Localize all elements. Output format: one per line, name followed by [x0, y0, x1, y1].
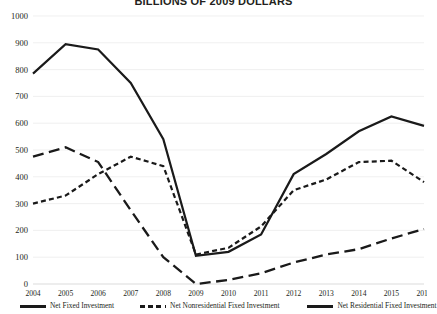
plot-area: 01002003004005006007008009001000 2004200…: [0, 0, 427, 296]
x-tick-label: 2004: [25, 289, 40, 296]
chart-legend: Net Fixed InvestmentNet Nonresidential F…: [0, 299, 427, 313]
data-series-group: [33, 44, 424, 284]
legend-swatch-dotted: [140, 305, 166, 308]
y-tick-label: 500: [15, 145, 28, 155]
x-tick-label: 2005: [58, 289, 73, 296]
y-tick-label: 700: [15, 91, 28, 101]
y-tick-label: 200: [15, 225, 28, 235]
legend-item[interactable]: Net Fixed Investment: [20, 302, 114, 309]
y-tick-label: 1000: [11, 11, 28, 21]
x-tick-label: 2008: [156, 289, 171, 296]
legend-item[interactable]: Net Residential Fixed Investment: [307, 302, 436, 309]
y-axis-tick-labels: 01002003004005006007008009001000: [11, 11, 28, 289]
x-tick-label: 2011: [254, 289, 269, 296]
x-tick-label: 2015: [384, 289, 399, 296]
x-tick-label: 2013: [319, 289, 334, 296]
legend-swatch-dashed: [307, 305, 333, 308]
legend-label: Net Residential Fixed Investment: [337, 302, 436, 309]
legend-label: Net Fixed Investment: [50, 302, 114, 309]
y-tick-label: 400: [15, 172, 28, 182]
gridlines: [33, 16, 424, 284]
y-tick-label: 600: [15, 118, 28, 128]
x-tick-label: 2006: [91, 289, 106, 296]
y-tick-label: 300: [15, 199, 28, 209]
x-tick-label: 2007: [123, 289, 138, 296]
x-axis-tick-labels: 2004200520062007200820092010201120122013…: [25, 289, 427, 296]
x-tick-label: 2010: [221, 289, 236, 296]
chart-svg: 01002003004005006007008009001000 2004200…: [0, 0, 427, 296]
legend-item[interactable]: Net Nonresidential Fixed Investment: [140, 302, 279, 309]
series-line-dashed: [33, 147, 424, 284]
series-line-dotted: [33, 157, 424, 255]
legend-swatch-solid: [20, 305, 46, 308]
y-tick-label: 800: [15, 65, 28, 75]
legend-label: Net Nonresidential Fixed Investment: [170, 302, 279, 309]
x-tick-label: 2012: [286, 289, 301, 296]
y-tick-label: 900: [15, 38, 28, 48]
x-tick-label: 2014: [351, 289, 366, 296]
x-tick-label: 2016: [416, 289, 427, 296]
x-tick-label: 2009: [188, 289, 203, 296]
y-tick-label: 100: [15, 252, 28, 262]
y-tick-label: 0: [24, 279, 28, 289]
